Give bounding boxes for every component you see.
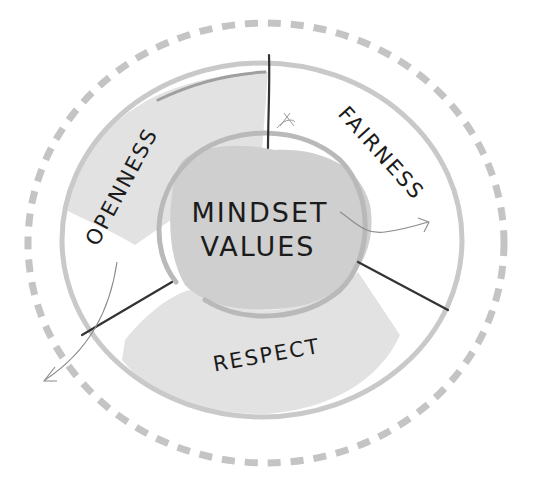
center-title-line2: VALUES — [201, 231, 316, 262]
divider-top — [268, 55, 269, 148]
mindset-values-diagram: MINDSET VALUES OPENNESS FAIRNESS RESPECT — [0, 0, 535, 477]
diagram-canvas: MINDSET VALUES OPENNESS FAIRNESS RESPECT — [0, 0, 535, 477]
center-title-line1: MINDSET — [192, 197, 329, 228]
arrow-head-openness-icon — [44, 367, 57, 381]
